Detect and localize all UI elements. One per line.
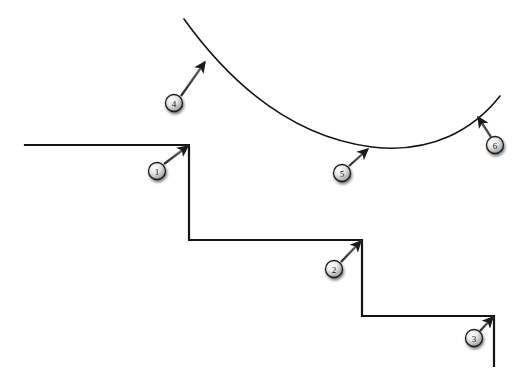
diagram-svg: 123456 [0,0,523,389]
diagram-background [0,0,523,389]
callout-circle-6[interactable] [487,137,504,154]
diagram-canvas: 123456 [0,0,523,389]
callout-circle-2[interactable] [326,261,343,278]
callout-circle-5[interactable] [334,165,351,182]
callout-circle-4[interactable] [166,95,183,112]
callout-circle-1[interactable] [149,163,166,180]
callout-circle-3[interactable] [466,330,483,347]
